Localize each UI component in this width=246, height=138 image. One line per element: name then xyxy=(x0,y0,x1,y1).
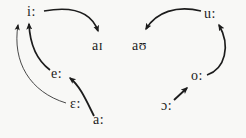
arrow-eps-to-i xyxy=(17,25,66,103)
vowel-label-open-o-long: ɔ: xyxy=(161,98,172,113)
vowel-label-e-long: e: xyxy=(51,66,62,81)
vowel-shift-diagram: i: aɪ aʊ u: e: ɛ: a: o: ɔ: xyxy=(0,0,246,138)
vowel-label-a-long: a: xyxy=(93,112,104,127)
arrow-i-to-ai xyxy=(44,9,98,31)
arrow-u-to-au xyxy=(146,9,201,29)
arrow-open-o-to-o xyxy=(174,88,187,100)
arrow-o-to-u xyxy=(207,25,225,75)
vowel-label-au-diph: aʊ xyxy=(132,38,147,53)
vowel-label-i-long: i: xyxy=(27,4,36,19)
arrow-e-to-i xyxy=(29,24,50,70)
vowel-label-eps-long: ɛ: xyxy=(70,96,81,111)
vowel-label-ai-diph: aɪ xyxy=(92,38,103,53)
vowel-label-u-long: u: xyxy=(204,6,216,21)
vowel-label-o-long: o: xyxy=(191,68,203,83)
